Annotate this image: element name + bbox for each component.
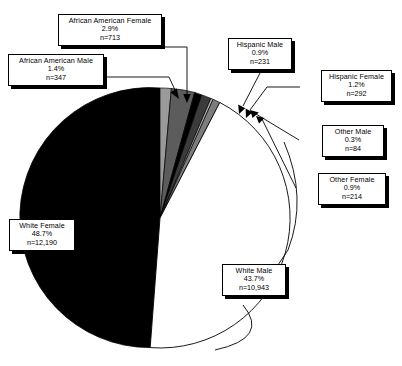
callout-african-american-female[interactable]: African American Female 2.9% n=713 — [58, 14, 162, 46]
arrowhead-hispanic-male — [238, 104, 245, 114]
leader-hispanic-male — [243, 73, 260, 106]
callout-count: n=231 — [233, 58, 287, 66]
leader-african-american-female — [164, 47, 187, 95]
callout-count: n=214 — [323, 193, 381, 201]
callout-other-male[interactable]: Other Male 0.3% n=84 — [322, 125, 384, 157]
callout-hispanic-male[interactable]: Hispanic Male 0.9% n=231 — [228, 38, 292, 70]
callout-white-female[interactable]: White Female 48.7% n=12,190 — [9, 219, 75, 251]
pie-slices — [20, 88, 290, 348]
callout-count: n=347 — [13, 74, 99, 82]
callout-count: n=12,190 — [14, 239, 70, 247]
callout-count: n=713 — [63, 34, 157, 42]
callout-other-female[interactable]: Other Female 0.9% n=214 — [318, 173, 386, 205]
pie-chart-figure: African American Female 2.9% n=713 Afric… — [0, 0, 402, 366]
callout-count: n=292 — [326, 90, 387, 98]
leader-hispanic-female — [250, 87, 300, 110]
callout-hispanic-female[interactable]: Hispanic Female 1.2% n=292 — [321, 70, 392, 102]
callout-count: n=84 — [327, 145, 379, 153]
callout-white-male[interactable]: White Male 43.7% n=10,943 — [222, 264, 286, 296]
callout-african-american-male[interactable]: African American Male 1.4% n=347 — [8, 54, 104, 86]
callout-count: n=10,943 — [227, 284, 281, 292]
slice-white-female — [20, 88, 160, 348]
